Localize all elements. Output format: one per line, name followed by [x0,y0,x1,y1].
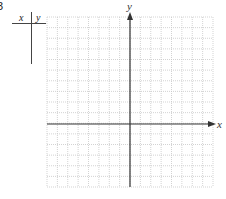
y-axis-label: y [126,0,132,12]
x-axis-label: x [216,118,222,130]
coordinate-plane: x y [0,0,226,199]
x-axis-arrow-icon [208,121,216,127]
y-axis-arrow-icon [127,12,133,20]
